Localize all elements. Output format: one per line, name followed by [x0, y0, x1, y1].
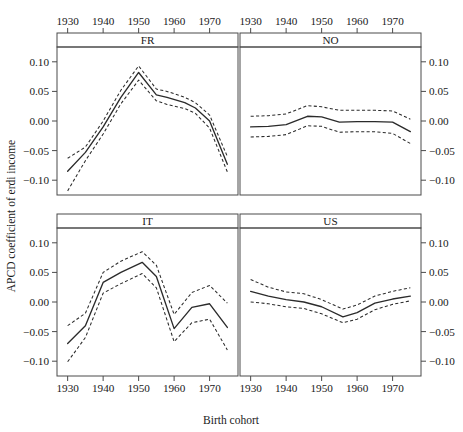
panel-box-it	[57, 228, 238, 376]
ci-lower-us	[251, 301, 411, 323]
y-tick-label: −0.05	[429, 145, 455, 157]
x-axis-bottom-col1: 19301940195019601970	[239, 376, 404, 394]
x-tick-label: 1950	[127, 15, 150, 27]
panel-strip-label-fr: FR	[141, 34, 155, 46]
trellis-chart: FRNOITUS19301940195019601970193019401950…	[0, 0, 463, 432]
ci-lower-fr	[68, 80, 228, 191]
x-tick-label: 1930	[56, 382, 79, 394]
panel-box-fr	[57, 47, 238, 195]
x-axis-top-col1: 19301940195019601970	[239, 15, 404, 33]
ci-lower-it	[68, 274, 228, 362]
x-tick-label: 1970	[198, 15, 221, 27]
y-axis-title: APCD coefficient of erdi income	[5, 140, 17, 292]
y-tick-label: 0.05	[429, 266, 449, 278]
panel-fr: FR	[57, 33, 238, 195]
x-tick-label: 1960	[346, 382, 369, 394]
x-tick-label: 1960	[163, 15, 186, 27]
y-tick-label: 0.00	[29, 296, 49, 308]
y-tick-label: −0.05	[429, 326, 455, 338]
y-axis-left-row0: 0.100.050.00−0.05−0.10	[23, 56, 57, 186]
panel-no: NO	[240, 33, 421, 195]
y-axis-right-row0: 0.100.050.00−0.05−0.10	[421, 56, 455, 186]
y-axis-left-row1: 0.100.050.00−0.05−0.10	[23, 237, 57, 367]
y-tick-label: 0.05	[429, 85, 449, 97]
y-tick-label: 0.05	[29, 266, 49, 278]
y-tick-label: 0.10	[29, 56, 49, 68]
x-tick-label: 1960	[346, 15, 369, 27]
chart-figure: FRNOITUS19301940195019601970193019401950…	[0, 0, 463, 432]
y-tick-label: 0.10	[429, 56, 449, 68]
x-tick-label: 1930	[239, 15, 262, 27]
x-tick-label: 1950	[310, 15, 333, 27]
y-tick-label: 0.05	[29, 85, 49, 97]
y-tick-label: 0.10	[429, 237, 449, 249]
x-tick-label: 1950	[127, 382, 150, 394]
panel-strip-label-us: US	[323, 215, 337, 227]
y-tick-label: −0.10	[23, 355, 49, 367]
y-tick-label: −0.10	[429, 355, 455, 367]
panel-box-no	[240, 47, 421, 195]
x-axis-bottom-col0: 19301940195019601970	[56, 376, 221, 394]
y-axis-right-row1: 0.100.050.00−0.05−0.10	[421, 237, 455, 367]
panel-box-us	[240, 228, 421, 376]
y-tick-label: −0.05	[23, 145, 49, 157]
ci-lower-no	[251, 126, 411, 144]
x-tick-label: 1930	[56, 15, 79, 27]
estimate-line-it	[68, 262, 228, 343]
x-tick-label: 1940	[275, 382, 298, 394]
x-tick-label: 1940	[275, 15, 298, 27]
panel-strip-label-it: IT	[142, 215, 153, 227]
panel-it: IT	[57, 214, 238, 376]
x-tick-label: 1940	[92, 382, 115, 394]
estimate-line-us	[251, 291, 411, 316]
y-tick-label: 0.00	[429, 296, 449, 308]
x-tick-label: 1970	[381, 15, 404, 27]
panel-strip-label-no: NO	[322, 34, 338, 46]
x-tick-label: 1970	[198, 382, 221, 394]
panel-us: US	[240, 214, 421, 376]
x-tick-label: 1950	[310, 382, 333, 394]
y-tick-label: −0.10	[429, 174, 455, 186]
y-tick-label: 0.00	[29, 115, 49, 127]
ci-upper-it	[68, 252, 228, 326]
x-tick-label: 1930	[239, 382, 262, 394]
x-tick-label: 1970	[381, 382, 404, 394]
y-tick-label: −0.05	[23, 326, 49, 338]
y-tick-label: −0.10	[23, 174, 49, 186]
x-axis-title: Birth cohort	[203, 414, 260, 426]
y-tick-label: 0.00	[429, 115, 449, 127]
x-tick-label: 1940	[92, 15, 115, 27]
x-axis-top-col0: 19301940195019601970	[56, 15, 221, 33]
x-tick-label: 1960	[163, 382, 186, 394]
y-tick-label: 0.10	[29, 237, 49, 249]
ci-upper-no	[251, 106, 411, 120]
